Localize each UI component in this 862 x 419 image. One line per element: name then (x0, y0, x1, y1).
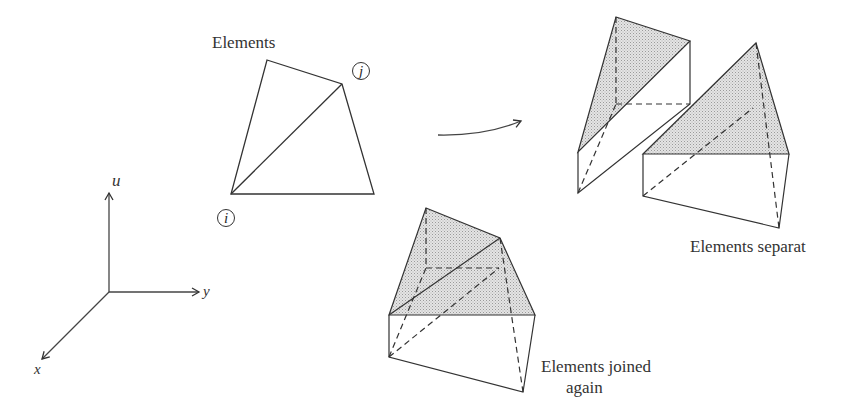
quad-outline (231, 60, 374, 194)
transition-arrow (438, 121, 521, 135)
element-diagonal (231, 84, 342, 194)
node-i-marker: i (217, 209, 235, 227)
elements-title: Elements (212, 34, 275, 51)
right-prism-visible-edges (643, 154, 789, 228)
node-i-label: i (224, 211, 228, 226)
joined-prism (389, 208, 535, 392)
flat-element-mesh (231, 60, 374, 194)
coordinate-axes (42, 193, 199, 359)
separated-caption: Elements separat (690, 238, 806, 255)
joined-caption-line2: again (566, 379, 603, 396)
right-prism (643, 43, 789, 228)
joined-prism-visible-edges (389, 315, 535, 392)
separated-prisms (578, 17, 789, 228)
node-j-label: j (359, 64, 363, 79)
x-axis (42, 292, 109, 359)
diagram-canvas (0, 0, 862, 419)
node-j-marker: j (352, 62, 370, 80)
joined-prism-top-face (389, 208, 535, 315)
u-axis-label: u (112, 172, 121, 189)
joined-caption-line1: Elements joined (541, 358, 651, 375)
left-prism (578, 17, 690, 193)
x-axis-label: x (34, 362, 41, 377)
y-axis-label: y (203, 284, 210, 299)
